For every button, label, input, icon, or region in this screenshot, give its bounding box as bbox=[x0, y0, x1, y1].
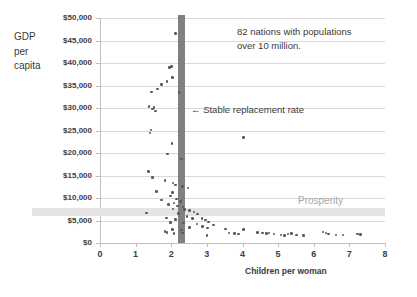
x-axis-tick-mark bbox=[207, 243, 208, 247]
data-point bbox=[207, 221, 210, 224]
data-point bbox=[256, 231, 259, 234]
x-axis-tick-mark bbox=[385, 243, 386, 247]
data-point bbox=[242, 228, 245, 231]
data-point bbox=[178, 91, 181, 94]
population-note-line-2: over 10 million. bbox=[237, 39, 352, 53]
data-point bbox=[359, 233, 362, 236]
data-point bbox=[175, 198, 178, 201]
data-point bbox=[201, 217, 204, 220]
data-point bbox=[166, 153, 169, 156]
x-axis-tick-label: 3 bbox=[197, 250, 217, 259]
x-axis-tick-label: 7 bbox=[339, 250, 359, 259]
data-point bbox=[166, 80, 169, 83]
y-axis-tick-mark bbox=[96, 198, 100, 199]
data-point bbox=[174, 218, 177, 221]
data-point bbox=[295, 234, 298, 237]
y-axis-tick-mark bbox=[96, 86, 100, 87]
data-point bbox=[201, 225, 204, 228]
data-point bbox=[160, 199, 163, 202]
data-point bbox=[171, 76, 174, 79]
data-point bbox=[180, 158, 183, 161]
data-point bbox=[169, 221, 172, 224]
data-point bbox=[170, 65, 173, 68]
x-axis-tick-label: 5 bbox=[268, 250, 288, 259]
x-axis-tick-label: 8 bbox=[375, 250, 395, 259]
scatter-chart: GDP per capita $0$5,000$10,000$15,000$20… bbox=[0, 0, 417, 297]
data-point bbox=[150, 91, 153, 94]
y-axis-tick-label: $25,000 bbox=[63, 127, 92, 135]
stable-replacement-rate-annotation: ← Stable replacement rate bbox=[191, 104, 304, 115]
y-axis-tick-mark bbox=[96, 63, 100, 64]
data-point bbox=[165, 217, 168, 220]
y-axis-tick-label: $30,000 bbox=[63, 104, 92, 112]
data-point bbox=[191, 217, 194, 220]
x-axis-title: Children per woman bbox=[245, 266, 327, 276]
gridline-horizontal bbox=[100, 86, 385, 87]
data-point bbox=[177, 212, 180, 215]
data-point bbox=[356, 233, 359, 236]
y-axis-tick-label: $10,000 bbox=[63, 194, 92, 202]
y-axis-tick-mark bbox=[96, 176, 100, 177]
x-axis-tick-mark bbox=[100, 243, 101, 247]
data-point bbox=[171, 142, 174, 145]
gridline-horizontal bbox=[100, 18, 385, 19]
gridline-horizontal bbox=[100, 176, 385, 177]
x-axis-tick-mark bbox=[243, 243, 244, 247]
data-point bbox=[174, 184, 177, 187]
data-point bbox=[186, 215, 189, 218]
data-point bbox=[147, 170, 150, 173]
x-axis-tick-mark bbox=[278, 243, 279, 247]
y-axis-tick-mark bbox=[96, 153, 100, 154]
y-axis-tick-label: $20,000 bbox=[63, 149, 92, 157]
population-note-annotation: 82 nations with populations over 10 mill… bbox=[237, 25, 352, 54]
data-point bbox=[160, 83, 163, 86]
x-axis-tick-label: 2 bbox=[161, 250, 181, 259]
data-point bbox=[167, 203, 170, 206]
data-point bbox=[206, 234, 209, 237]
x-axis-tick-label: 6 bbox=[304, 250, 324, 259]
gridline-horizontal bbox=[100, 131, 385, 132]
x-axis-tick-label: 1 bbox=[126, 250, 146, 259]
x-axis-tick-label: 0 bbox=[90, 250, 110, 259]
y-axis-tick-mark bbox=[96, 221, 100, 222]
data-point bbox=[145, 212, 148, 215]
data-point bbox=[151, 176, 154, 179]
data-point bbox=[180, 229, 183, 232]
y-axis-tick-label: $0 bbox=[83, 239, 92, 247]
data-point bbox=[164, 179, 167, 182]
population-note-line-1: 82 nations with populations bbox=[237, 25, 352, 39]
y-axis-tick-labels: $0$5,000$10,000$15,000$20,000$25,000$30,… bbox=[0, 0, 92, 297]
y-axis-tick-label: $50,000 bbox=[63, 14, 92, 22]
x-axis-tick-label: 4 bbox=[233, 250, 253, 259]
data-point bbox=[171, 228, 174, 231]
data-point bbox=[212, 224, 215, 227]
data-point bbox=[174, 32, 177, 35]
data-point bbox=[237, 233, 240, 236]
data-point bbox=[188, 209, 191, 212]
gridline-horizontal bbox=[100, 153, 385, 154]
y-axis-tick-mark bbox=[96, 18, 100, 19]
y-axis-tick-label: $5,000 bbox=[68, 217, 92, 225]
y-axis-tick-mark bbox=[96, 41, 100, 42]
data-point bbox=[283, 234, 286, 237]
data-point bbox=[290, 232, 293, 235]
data-point bbox=[302, 234, 305, 237]
y-axis-tick-mark bbox=[96, 131, 100, 132]
x-axis-tick-mark bbox=[136, 243, 137, 247]
y-axis-tick-label: $40,000 bbox=[63, 59, 92, 67]
gridline-horizontal bbox=[100, 221, 385, 222]
y-axis-tick-label: $15,000 bbox=[63, 172, 92, 180]
y-axis-tick-mark bbox=[96, 108, 100, 109]
x-axis-tick-mark bbox=[171, 243, 172, 247]
y-axis-tick-label: $35,000 bbox=[63, 82, 92, 90]
prosperity-band bbox=[32, 208, 385, 216]
data-point bbox=[179, 200, 182, 203]
data-point bbox=[242, 136, 245, 139]
data-point bbox=[233, 232, 236, 235]
x-axis-tick-mark bbox=[314, 243, 315, 247]
gridline-horizontal bbox=[100, 63, 385, 64]
data-point bbox=[181, 185, 184, 188]
data-point bbox=[155, 190, 158, 193]
data-point bbox=[171, 191, 174, 194]
y-axis-tick-label: $45,000 bbox=[63, 37, 92, 45]
